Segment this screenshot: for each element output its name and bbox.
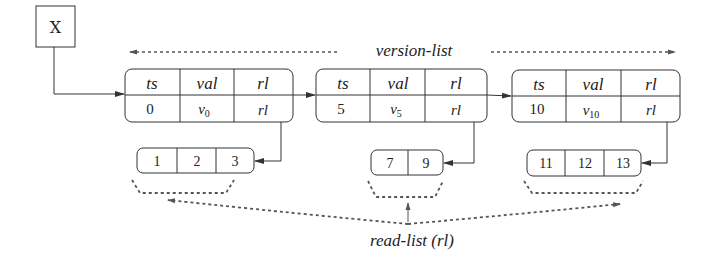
read-list-entry: 9 bbox=[423, 156, 430, 171]
header-rl: rl bbox=[645, 75, 657, 94]
read-list-entry: 2 bbox=[194, 154, 201, 169]
read-list-1: 7 9 bbox=[371, 150, 443, 175]
header-rl: rl bbox=[257, 74, 269, 93]
version-ts: 10 bbox=[530, 101, 545, 117]
rl-pointer-arrow bbox=[444, 122, 474, 163]
header-val: val bbox=[388, 74, 409, 93]
version-node-0: ts val rl 0 v0 rl bbox=[125, 69, 293, 122]
header-rl: rl bbox=[450, 74, 462, 93]
rl-pointer-arrow bbox=[642, 122, 667, 163]
read-list-entry: 3 bbox=[232, 154, 239, 169]
rl-pointer-arrow bbox=[255, 122, 281, 161]
header-val: val bbox=[197, 74, 218, 93]
read-list-2: 11 12 13 bbox=[527, 150, 641, 176]
root-node: X bbox=[36, 6, 75, 47]
version-ts: 0 bbox=[146, 101, 154, 117]
read-list-label: read-list (rl) bbox=[370, 231, 454, 250]
version-rl: rl bbox=[646, 102, 656, 118]
version-rl: rl bbox=[451, 102, 461, 118]
version-rl: rl bbox=[258, 102, 268, 118]
header-ts: ts bbox=[533, 75, 545, 94]
version-list-annotation: version-list bbox=[130, 41, 675, 60]
version-list-label: version-list bbox=[376, 41, 454, 60]
read-list-pointers bbox=[168, 200, 620, 224]
read-list-entry: 13 bbox=[616, 156, 630, 171]
read-list-braces bbox=[132, 180, 643, 197]
read-list-entry: 7 bbox=[387, 156, 394, 171]
header-ts: ts bbox=[146, 74, 158, 93]
root-pointer-arrow bbox=[54, 47, 124, 94]
header-ts: ts bbox=[337, 74, 349, 93]
version-node-2: ts val rl 10 v10 rl bbox=[512, 70, 680, 122]
read-list-entry: 11 bbox=[539, 156, 552, 171]
version-node-1: ts val rl 5 v5 rl bbox=[316, 69, 487, 122]
version-ts: 5 bbox=[337, 101, 345, 117]
read-list-entry: 12 bbox=[578, 156, 592, 171]
next-pointer-arrow bbox=[487, 95, 511, 96]
read-list-entry: 1 bbox=[154, 154, 161, 169]
version-list-diagram: X version-list ts val rl 0 v0 rl ts val … bbox=[0, 0, 715, 262]
header-val: val bbox=[583, 75, 604, 94]
root-label: X bbox=[50, 18, 62, 37]
read-list-0: 1 2 3 bbox=[137, 148, 254, 173]
